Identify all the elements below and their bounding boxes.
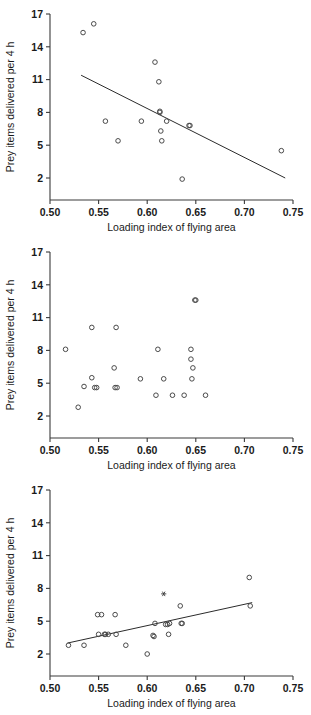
data-point [191,366,196,371]
data-point [248,604,253,609]
data-point [139,119,144,124]
y-tick-label: 5 [37,615,43,627]
data-point [82,643,87,648]
y-axis-title: Prey items delivered per 4 h [4,279,16,410]
x-tick-label: 0.50 [40,206,61,218]
y-tick-label: 14 [31,41,43,53]
data-points [81,22,284,182]
data-point [138,377,143,382]
data-point [90,325,95,330]
data-point [156,347,161,352]
y-tick-label: 2 [37,648,43,660]
plot-area-top: 2581114170.500.550.600.650.700.75Loading… [0,0,311,238]
data-point [178,604,183,609]
figure-three-panel-scatter: 2581114170.500.550.600.650.700.75Loading… [0,0,311,715]
data-point [90,375,95,380]
y-tick-label: 11 [32,311,43,323]
y-tick-label: 5 [37,139,43,151]
x-tick-label: 0.75 [283,444,304,456]
regression-line [67,603,252,643]
data-point [182,393,187,398]
data-point [203,393,208,398]
data-point [66,643,71,648]
x-tick-label: 0.65 [186,682,207,694]
x-tick-label: 0.60 [137,682,158,694]
y-tick-label: 5 [37,377,43,389]
y-axis-title: Prey items delivered per 4 h [4,517,16,648]
data-point [157,79,162,84]
data-point [114,325,119,330]
data-point [145,652,150,657]
data-point [112,366,117,371]
data-point [153,60,158,65]
data-point [91,22,96,27]
data-point [279,148,284,153]
data-point [154,393,159,398]
data-point [166,632,171,637]
data-point [161,377,166,382]
data-point [164,119,169,124]
data-point [180,177,185,182]
data-point [159,129,164,134]
x-tick-label: 0.50 [40,444,61,456]
y-axis-title: Prey items delivered per 4 h [4,41,16,172]
y-tick-label: 11 [32,73,43,85]
data-point [76,405,81,410]
data-point [189,347,194,352]
data-point [103,119,108,124]
x-axis-title: Loading index of flying area [107,697,236,709]
data-points [66,575,252,656]
y-tick-label: 17 [31,484,43,496]
x-tick-label: 0.70 [234,206,255,218]
data-points [63,298,208,410]
x-tick-label: 0.55 [88,206,109,218]
plot-area-bottom: 2581114170.500.550.600.650.700.75Loading… [0,476,311,714]
x-tick-label: 0.75 [283,206,304,218]
data-point [116,139,121,144]
x-tick-label: 0.70 [234,444,255,456]
data-point [152,634,157,639]
x-tick-label: 0.50 [40,682,61,694]
x-tick-label: 0.75 [283,682,304,694]
x-axis-title: Loading index of flying area [107,459,236,471]
data-point [190,377,195,382]
data-point [170,393,175,398]
data-point [159,139,164,144]
y-tick-label: 2 [37,172,43,184]
scatter-panel-bottom: 2581114170.500.550.600.650.700.75Loading… [0,476,311,714]
data-point [124,643,129,648]
special-data-point-asterisk [161,592,166,597]
scatter-panel-middle: 2581114170.500.550.600.650.700.75Loading… [0,238,311,476]
y-tick-label: 17 [31,246,43,258]
y-tick-label: 11 [32,549,43,561]
y-tick-label: 14 [31,517,43,529]
y-tick-label: 17 [31,8,43,20]
data-point [113,612,118,617]
x-axis-title: Loading index of flying area [107,221,236,233]
y-tick-label: 8 [37,582,43,594]
y-tick-label: 2 [37,410,43,422]
scatter-panel-top: 2581114170.500.550.600.650.700.75Loading… [0,0,311,238]
y-tick-label: 8 [37,106,43,118]
x-tick-label: 0.55 [88,444,109,456]
plot-area-middle: 2581114170.500.550.600.650.700.75Loading… [0,238,311,476]
y-tick-label: 8 [37,344,43,356]
x-tick-label: 0.55 [88,682,109,694]
data-point [63,347,68,352]
x-tick-label: 0.65 [186,206,207,218]
x-tick-label: 0.60 [137,444,158,456]
data-point [247,575,252,580]
x-tick-label: 0.60 [137,206,158,218]
data-point [82,384,87,389]
x-tick-label: 0.65 [186,444,207,456]
regression-line [81,75,285,178]
y-tick-label: 14 [31,279,43,291]
data-point [81,30,86,35]
data-point [189,357,194,362]
x-tick-label: 0.70 [234,682,255,694]
